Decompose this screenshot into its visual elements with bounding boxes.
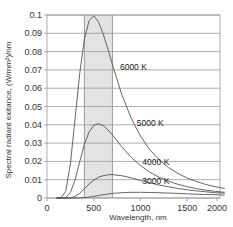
y-tick-label: 0.07 — [24, 65, 42, 75]
x-tick-label: 1000 — [130, 203, 150, 213]
x-tick-label: 2000 — [207, 203, 227, 213]
y-tick-label: 0.1 — [29, 10, 42, 20]
y-tick-label: 0.02 — [24, 156, 42, 166]
y-axis-title: Spectral radiant exitance, (W/mm²)/nm — [4, 41, 13, 178]
blackbody-spectrum-chart: 00.010.020.030.040.050.060.070.080.090.1… — [0, 0, 233, 227]
y-axis-ticks: 00.010.020.030.040.050.060.070.080.090.1 — [24, 10, 42, 203]
series-labels: 6000 K5000 K4000 K3000 K — [119, 62, 171, 186]
series-label-5000k: 5000 K — [137, 118, 164, 128]
curve-5000k — [56, 124, 224, 198]
x-tick-label: 1500 — [177, 203, 197, 213]
curve-6000k — [56, 16, 224, 198]
grid-lines — [44, 15, 220, 198]
y-tick-label: 0.01 — [24, 175, 42, 185]
y-tick-label: 0.09 — [24, 28, 42, 38]
series-label-6000k: 6000 K — [120, 62, 147, 72]
curve-3000k — [56, 192, 224, 198]
y-tick-label: 0.05 — [24, 102, 42, 112]
series-label-4000k: 4000 K — [142, 157, 169, 167]
y-tick-label: 0.06 — [24, 83, 42, 93]
y-tick-label: 0 — [37, 193, 42, 203]
x-tick-label: 500 — [86, 203, 101, 213]
y-tick-label: 0.08 — [24, 47, 42, 57]
series-label-3000k: 3000 K — [142, 176, 169, 186]
spectral-curves — [56, 16, 224, 198]
y-tick-label: 0.03 — [24, 138, 42, 148]
y-tick-label: 0.04 — [24, 120, 42, 130]
x-tick-label: 0 — [44, 203, 49, 213]
x-axis-ticks: 0500100015002000 — [44, 198, 227, 213]
x-axis-title: Wavelength, nm — [109, 213, 167, 222]
